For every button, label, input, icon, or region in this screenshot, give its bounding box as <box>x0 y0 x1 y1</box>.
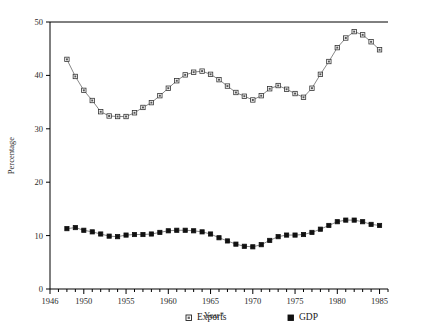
data-point <box>251 245 255 249</box>
y-tick-label: 50 <box>35 17 44 27</box>
data-point-center <box>142 106 144 108</box>
data-point <box>158 230 162 234</box>
data-point-center <box>159 95 161 97</box>
line-chart: 0102030405019461950195519601965197019751… <box>0 0 435 336</box>
data-point <box>293 233 297 237</box>
x-tick-label: 1965 <box>202 296 219 306</box>
data-point <box>141 232 145 236</box>
data-point <box>318 227 322 231</box>
y-axis-title: Percentage <box>6 137 16 175</box>
data-point-center <box>328 61 330 63</box>
data-point <box>90 230 94 234</box>
series-exports <box>65 29 382 118</box>
data-point-center <box>201 70 203 72</box>
data-point <box>259 243 263 247</box>
data-point-center <box>362 34 364 36</box>
data-point-center <box>286 88 288 90</box>
data-point-center <box>319 73 321 75</box>
data-point-center <box>336 47 338 49</box>
data-point-center <box>252 99 254 101</box>
data-point <box>234 242 238 246</box>
data-point <box>352 218 356 222</box>
data-point <box>217 236 221 240</box>
data-point <box>192 229 196 233</box>
x-ticks: 194619501955196019651970197519801985 <box>42 289 389 306</box>
x-tick-label: 1980 <box>329 296 346 306</box>
chart-container: 0102030405019461950195519601965197019751… <box>0 0 435 336</box>
data-point <box>242 244 246 248</box>
data-point-center <box>210 73 212 75</box>
data-point-center <box>193 71 195 73</box>
data-point <box>99 232 103 236</box>
data-point <box>183 228 187 232</box>
y-tick-label: 40 <box>35 70 44 80</box>
data-point <box>166 229 170 233</box>
data-point <box>65 227 69 231</box>
data-point-center <box>311 87 313 89</box>
series-gdp <box>65 218 382 249</box>
data-point-center <box>353 31 355 33</box>
data-point <box>175 228 179 232</box>
axes <box>50 22 388 289</box>
data-point <box>124 233 128 237</box>
data-point <box>369 222 373 226</box>
x-tick-label: 1946 <box>42 296 59 306</box>
data-point <box>200 230 204 234</box>
data-point-center <box>277 85 279 87</box>
data-point-center <box>176 80 178 82</box>
x-tick-label: 1950 <box>75 296 92 306</box>
data-point-center <box>269 88 271 90</box>
data-point-center <box>243 95 245 97</box>
data-point <box>116 235 120 239</box>
data-point <box>107 234 111 238</box>
series-line <box>67 32 380 117</box>
data-point-center <box>108 115 110 117</box>
data-point-center <box>235 91 237 93</box>
data-point-center <box>345 37 347 39</box>
legend: ExportsGDP <box>186 312 318 322</box>
data-point <box>344 218 348 222</box>
legend-label-exports: Exports <box>197 312 227 322</box>
data-point-center <box>125 116 127 118</box>
y-tick-label: 20 <box>35 177 44 187</box>
data-point-center <box>100 111 102 113</box>
x-tick-label: 1975 <box>287 296 304 306</box>
data-point-center <box>184 74 186 76</box>
data-point-center <box>370 41 372 43</box>
series-line <box>67 220 380 247</box>
data-point-center <box>150 102 152 104</box>
data-point-center <box>167 87 169 89</box>
data-point-center <box>294 93 296 95</box>
data-point <box>377 223 381 227</box>
x-tick-label: 1955 <box>118 296 135 306</box>
data-point-center <box>379 49 381 51</box>
legend-label-gdp: GDP <box>299 312 318 322</box>
data-point <box>149 232 153 236</box>
y-tick-label: 30 <box>35 124 44 134</box>
y-tick-label: 0 <box>39 284 43 294</box>
data-point <box>208 232 212 236</box>
data-point-center <box>66 58 68 60</box>
data-point <box>335 220 339 224</box>
y-ticks: 01020304050 <box>35 17 51 294</box>
data-point-center <box>303 96 305 98</box>
data-point-center <box>260 95 262 97</box>
data-point-center <box>218 79 220 81</box>
data-point <box>276 235 280 239</box>
data-point-center <box>74 75 76 77</box>
legend-marker-gdp <box>288 315 294 321</box>
data-point <box>268 238 272 242</box>
data-point <box>82 228 86 232</box>
data-point <box>285 233 289 237</box>
data-point <box>361 220 365 224</box>
data-point-center <box>117 116 119 118</box>
data-point-center <box>226 85 228 87</box>
x-tick-label: 1985 <box>371 296 388 306</box>
y-tick-label: 10 <box>35 231 44 241</box>
data-point <box>73 225 77 229</box>
data-point <box>132 232 136 236</box>
data-point-center <box>91 100 93 102</box>
data-point <box>301 232 305 236</box>
x-tick-label: 1960 <box>160 296 177 306</box>
data-point-center <box>134 112 136 114</box>
